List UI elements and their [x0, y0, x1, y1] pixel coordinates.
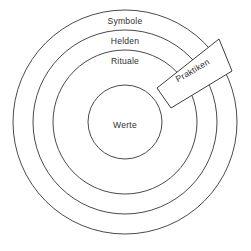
ring-label-werte: Werte: [113, 120, 137, 130]
ring-label-rituale: Rituale: [111, 56, 139, 66]
onion-diagram: Symbole Helden Rituale Werte Praktiken: [0, 0, 251, 251]
onion-diagram-svg: Symbole Helden Rituale Werte Praktiken: [0, 0, 251, 251]
ring-label-symbole: Symbole: [108, 16, 143, 26]
ring-label-helden: Helden: [111, 36, 139, 46]
